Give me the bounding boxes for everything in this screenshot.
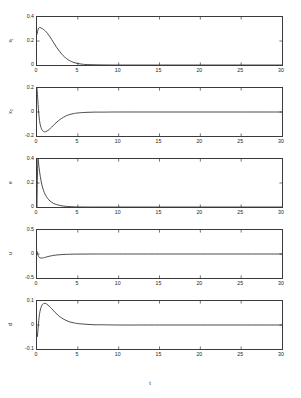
x-tick-label: 0 — [29, 68, 43, 73]
x-tick-label: 15 — [152, 352, 166, 357]
x-tick-label: 15 — [152, 68, 166, 73]
x-tick-label: 30 — [274, 139, 288, 144]
x-tick-label: 5 — [70, 352, 84, 357]
y-tick-label: 0.4 — [12, 156, 34, 161]
data-curve — [37, 159, 282, 207]
x-tick-label: 20 — [192, 210, 206, 215]
y-tick-label: 0.2 — [12, 85, 34, 90]
data-curve — [37, 303, 282, 336]
x-tick-label: 30 — [274, 68, 288, 73]
x-tick-label: 5 — [70, 210, 84, 215]
x-tick-label: 5 — [70, 139, 84, 144]
x-tick-label: 20 — [192, 68, 206, 73]
y-tick-label: 0 — [12, 109, 34, 114]
x-tick-label: 10 — [111, 352, 125, 357]
y-tick-label: 0 — [12, 204, 34, 209]
x-tick-label: 10 — [111, 139, 125, 144]
x-tick-label: 20 — [192, 352, 206, 357]
x-tick-label: 5 — [70, 281, 84, 286]
x-tick-label: 25 — [233, 139, 247, 144]
x-tick-label: 10 — [111, 210, 125, 215]
x-tick-label: 25 — [233, 352, 247, 357]
plot-axes-1 — [36, 16, 283, 66]
curve-canvas-3 — [37, 159, 282, 207]
x-tick-label: 25 — [233, 281, 247, 286]
x-tick-label: 0 — [29, 210, 43, 215]
y-tick-label: 0.5 — [12, 227, 34, 232]
x-tick-label: 10 — [111, 281, 125, 286]
y-tick-label: 0 — [12, 251, 34, 256]
x-tick-label: 0 — [29, 352, 43, 357]
x-tick-label: 20 — [192, 139, 206, 144]
curve-canvas-4 — [37, 230, 282, 278]
x-tick-label: 0 — [29, 139, 43, 144]
y-axis-label-2: x₂ — [8, 105, 13, 119]
y-tick-label: -0.2 — [12, 133, 34, 138]
y-tick-label: 0 — [12, 322, 34, 327]
plot-axes-2 — [36, 87, 283, 137]
curve-canvas-5 — [37, 301, 282, 349]
y-tick-label: 0 — [12, 62, 34, 67]
y-axis-label-4: u — [8, 247, 13, 261]
x-tick-label: 5 — [70, 68, 84, 73]
x-tick-label: 10 — [111, 68, 125, 73]
plot-axes-3 — [36, 158, 283, 208]
curve-canvas-2 — [37, 88, 282, 136]
data-curve — [37, 88, 282, 132]
y-axis-label-1: x₁ — [8, 34, 13, 48]
data-curve — [37, 251, 282, 258]
y-axis-label-5: d — [8, 318, 13, 332]
y-tick-label: 0.2 — [12, 180, 34, 185]
curve-canvas-1 — [37, 17, 282, 65]
plot-axes-4 — [36, 229, 283, 279]
y-axis-label-3: e — [8, 176, 13, 190]
plot-axes-5 — [36, 300, 283, 350]
data-curve — [37, 27, 282, 65]
x-tick-label: 20 — [192, 281, 206, 286]
x-tick-label: 30 — [274, 210, 288, 215]
x-tick-label: 0 — [29, 281, 43, 286]
x-tick-label: 25 — [233, 68, 247, 73]
x-tick-label: 15 — [152, 210, 166, 215]
y-tick-label: 0.2 — [12, 38, 34, 43]
matlab-figure-multiplot: 00.20.4051015202530x₁-0.200.205101520253… — [0, 0, 301, 398]
x-tick-label: 30 — [274, 281, 288, 286]
x-tick-label: 30 — [274, 352, 288, 357]
x-axis-label: t — [145, 381, 155, 387]
y-tick-label: 0.1 — [12, 298, 34, 303]
x-tick-label: 25 — [233, 210, 247, 215]
y-tick-label: 0.4 — [12, 14, 34, 19]
x-tick-label: 15 — [152, 281, 166, 286]
y-tick-label: -0.1 — [12, 346, 34, 351]
x-tick-label: 15 — [152, 139, 166, 144]
y-tick-label: -0.5 — [12, 275, 34, 280]
